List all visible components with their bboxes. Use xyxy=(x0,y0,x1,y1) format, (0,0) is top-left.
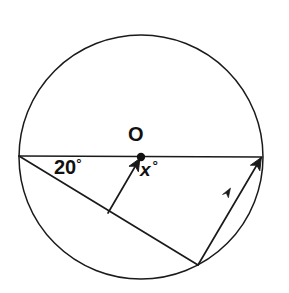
inscribed-angle-value: 20 xyxy=(54,156,76,178)
arrow-to-center-line xyxy=(108,159,140,213)
degree-symbol-icon: ° xyxy=(76,156,81,171)
degree-symbol-icon: ° xyxy=(153,158,158,173)
inscribed-angle-label: 20° xyxy=(54,157,82,177)
chord-bottom-to-right xyxy=(198,158,261,265)
geometry-canvas xyxy=(0,0,289,293)
central-angle-value: x xyxy=(140,159,151,180)
central-angle-label: x° xyxy=(140,159,158,179)
circle-geometry-figure: O 20° x° xyxy=(0,0,289,293)
chord-bottom-to-right-mid-arrowhead xyxy=(223,188,231,198)
center-label-o: O xyxy=(128,124,144,144)
